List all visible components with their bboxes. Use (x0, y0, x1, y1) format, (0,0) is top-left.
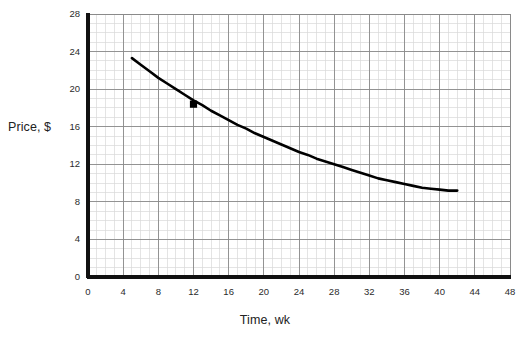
x-tick-label: 28 (322, 286, 346, 297)
x-tick-label: 20 (252, 286, 276, 297)
x-tick-label: 8 (146, 286, 170, 297)
x-tick-label: 4 (111, 286, 135, 297)
y-tick-label: 20 (58, 83, 80, 94)
x-axis-label: Time, wk (0, 313, 530, 327)
chart-figure: Price, $ Time, wk 0481216202428 04812162… (0, 0, 530, 338)
marker-square (190, 101, 197, 108)
y-tick-label: 8 (58, 196, 80, 207)
y-tick-label: 12 (58, 158, 80, 169)
x-tick-label: 32 (357, 286, 381, 297)
y-tick-label: 16 (58, 121, 80, 132)
x-tick-label: 0 (76, 286, 100, 297)
x-tick-label: 16 (217, 286, 241, 297)
y-tick-label: 4 (58, 233, 80, 244)
x-tick-label: 12 (182, 286, 206, 297)
series-path (132, 58, 457, 190)
y-tick-label: 28 (58, 8, 80, 19)
x-tick-label: 44 (463, 286, 487, 297)
y-tick-label: 0 (58, 271, 80, 282)
x-tick-label: 36 (393, 286, 417, 297)
data-series-line (132, 58, 457, 190)
data-point-marker (190, 101, 197, 108)
x-tick-label: 40 (428, 286, 452, 297)
x-tick-label: 48 (498, 286, 522, 297)
y-tick-label: 24 (58, 46, 80, 57)
x-tick-label: 24 (287, 286, 311, 297)
